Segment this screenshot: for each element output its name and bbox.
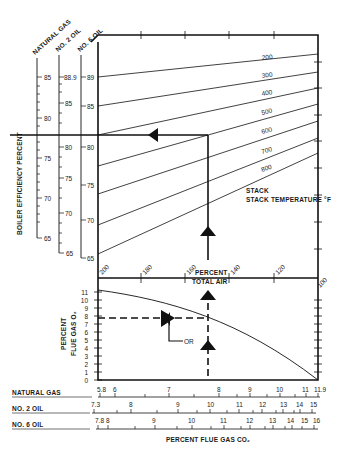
stack-temp-label: STACK TEMPERATURE °F: [246, 196, 331, 203]
o2-axis: 0 1 2 3 4 5 6 7 8 9 10 11: [81, 289, 102, 384]
boiler-efficiency-nomograph: NATURAL GAS 85 80 75 70 65 NO. 2 OIL 88.…: [0, 0, 343, 460]
o2-ylabel-1: PERCENT: [60, 318, 67, 350]
arrow-up-icon: [200, 226, 216, 236]
or-connector: [169, 318, 183, 341]
svg-text:400: 400: [261, 88, 273, 97]
svg-text:6: 6: [84, 329, 88, 336]
svg-text:2: 2: [84, 361, 88, 368]
svg-text:TOTAL AIR: TOTAL AIR: [192, 278, 228, 285]
svg-text:11: 11: [302, 386, 309, 393]
svg-text:14: 14: [287, 417, 295, 424]
svg-text:65: 65: [66, 250, 74, 257]
co2-xlabel: PERCENT FLUE GAS CO₂: [166, 436, 250, 443]
svg-text:9: 9: [152, 417, 156, 424]
svg-text:PERCENT: PERCENT: [195, 269, 227, 276]
svg-text:70: 70: [44, 195, 52, 202]
arrow-up-icon: [200, 290, 216, 300]
svg-text:8: 8: [129, 401, 133, 408]
svg-text:120: 120: [274, 263, 287, 276]
svg-text:11: 11: [81, 289, 88, 296]
svg-text:7: 7: [167, 386, 171, 393]
svg-text:9: 9: [248, 386, 252, 393]
svg-text:7: 7: [84, 321, 88, 328]
svg-text:800: 800: [260, 163, 273, 173]
svg-text:5: 5: [84, 337, 88, 344]
svg-text:8: 8: [84, 313, 88, 320]
svg-text:12: 12: [259, 401, 267, 408]
arrow-up-icon: [200, 340, 216, 350]
example-path-efficiency: [10, 135, 208, 260]
svg-text:8: 8: [106, 417, 110, 424]
efficiency-ylabel: BOILER EFFICIENCY PERCENT: [16, 132, 23, 235]
example-path-o2: [98, 292, 208, 380]
co2-scale-no2-oil: NO. 2 OIL 7.3 8 9 10 11 12 13 14 15: [12, 401, 318, 413]
svg-text:4: 4: [84, 345, 88, 352]
svg-text:5.8: 5.8: [97, 386, 106, 393]
co2-scale-natural-gas: NATURAL GAS 5.8 6 7 8 9 10 11 11.9: [12, 386, 327, 397]
svg-text:NATURAL GAS: NATURAL GAS: [12, 389, 61, 396]
svg-text:11: 11: [236, 401, 243, 408]
svg-text:10: 10: [276, 386, 284, 393]
arrow-left-icon: [148, 128, 158, 142]
svg-text:85: 85: [44, 74, 52, 81]
svg-text:75: 75: [87, 182, 95, 189]
svg-text:16: 16: [313, 417, 321, 424]
svg-text:15: 15: [310, 401, 318, 408]
svg-text:15: 15: [301, 417, 309, 424]
co2-scale-no6-oil: NO. 6 OIL 7.8 8 9 10 11 12 13 14 15 16: [12, 417, 321, 429]
svg-text:88.9: 88.9: [64, 74, 77, 81]
svg-text:14: 14: [296, 401, 304, 408]
svg-text:8: 8: [217, 386, 221, 393]
svg-text:9: 9: [84, 305, 88, 312]
svg-text:65: 65: [87, 255, 95, 262]
svg-text:600: 600: [260, 125, 273, 135]
svg-text:13: 13: [280, 401, 288, 408]
stack-temp-label-1: STACK: [246, 187, 269, 194]
svg-text:75: 75: [65, 175, 73, 182]
arrow-right-icon: [161, 310, 175, 327]
svg-text:80: 80: [44, 115, 52, 122]
stack-temp-labels: 200 300 400 500 600 700 800: [260, 53, 273, 173]
efficiency-scale-no2-oil: NO. 2 OIL 88.9 85 80 75 70 65: [54, 27, 82, 257]
efficiency-scale-no6-oil: NO. 6 OIL 89 85 80 75 70 65: [76, 27, 104, 262]
svg-text:NO. 6 OIL: NO. 6 OIL: [12, 421, 43, 428]
svg-text:NO. 2 OIL: NO. 2 OIL: [12, 405, 43, 412]
svg-text:13: 13: [269, 417, 277, 424]
svg-text:12: 12: [246, 417, 254, 424]
svg-text:6: 6: [113, 386, 117, 393]
svg-text:80: 80: [87, 144, 95, 151]
svg-text:10: 10: [81, 297, 89, 304]
efficiency-scale-natural-gas: NATURAL GAS 85 80 75 70 65: [31, 18, 72, 242]
total-air-axis: 200 180 160 140 120 100 PERCENT TOTAL AI…: [98, 263, 329, 289]
svg-text:10: 10: [188, 417, 196, 424]
svg-text:70: 70: [65, 210, 73, 217]
svg-text:200: 200: [98, 263, 111, 276]
svg-text:80: 80: [65, 144, 73, 151]
svg-text:10: 10: [207, 401, 215, 408]
svg-text:300: 300: [261, 70, 273, 78]
svg-text:180: 180: [141, 263, 154, 276]
svg-text:7.8: 7.8: [95, 417, 104, 424]
svg-text:11: 11: [220, 417, 227, 424]
svg-text:140: 140: [229, 263, 242, 276]
svg-text:89: 89: [87, 74, 95, 81]
svg-text:70: 70: [87, 217, 95, 224]
svg-text:700: 700: [260, 145, 273, 155]
svg-text:75: 75: [44, 155, 52, 162]
or-label: OR: [184, 338, 194, 345]
svg-text:11.9: 11.9: [314, 386, 327, 393]
svg-text:3: 3: [84, 353, 88, 360]
svg-text:9: 9: [176, 401, 180, 408]
svg-text:200: 200: [261, 53, 273, 61]
svg-text:0: 0: [84, 377, 88, 384]
svg-text:85: 85: [87, 103, 95, 110]
chart-frame: [91, 35, 318, 380]
svg-text:65: 65: [44, 235, 52, 242]
o2-ylabel-2: FLUE GAS O₂: [70, 311, 77, 356]
svg-text:85: 85: [65, 100, 73, 107]
svg-text:500: 500: [261, 107, 274, 116]
svg-text:7.3: 7.3: [91, 401, 100, 408]
svg-text:1: 1: [84, 369, 88, 376]
